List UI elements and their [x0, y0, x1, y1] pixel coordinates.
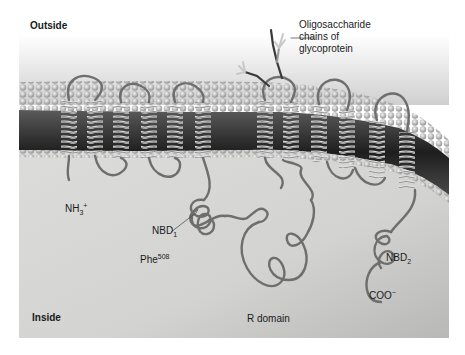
n-terminus-subscript: 3 — [79, 209, 83, 216]
r-domain-label: R domain — [247, 313, 290, 325]
c-terminus-text: COO — [369, 290, 392, 301]
c-terminus-charge: − — [392, 289, 396, 296]
nbd1-label: NBD1 — [152, 225, 177, 237]
nbd1-subscript: 1 — [173, 231, 177, 238]
oligosaccharide-label-line2: chains of — [299, 31, 371, 43]
n-terminus-text: NH — [65, 203, 79, 214]
membrane-protein-diagram: Outside Oligosaccharide chains of glycop… — [19, 0, 449, 338]
nbd2-label: NBD2 — [386, 252, 411, 264]
nbd2-text: NBD — [386, 252, 407, 263]
diagram-illustration — [19, 0, 449, 338]
n-terminus-charge: + — [83, 202, 87, 209]
nbd2-subscript: 2 — [407, 258, 411, 265]
phe-superscript: 508 — [158, 253, 170, 260]
phe508-label: Phe508 — [140, 254, 169, 266]
c-terminus-label: COO− — [369, 290, 396, 302]
nbd1-text: NBD — [152, 225, 173, 236]
oligosaccharide-label: Oligosaccharide chains of glycoprotein — [299, 19, 371, 55]
outside-label: Outside — [30, 20, 67, 32]
n-terminus-label: NH3+ — [65, 203, 87, 215]
oligosaccharide-label-line1: Oligosaccharide — [299, 19, 371, 31]
oligosaccharide-label-line3: glycoprotein — [299, 43, 371, 55]
phe-text: Phe — [140, 254, 158, 265]
inside-label: Inside — [32, 312, 61, 324]
